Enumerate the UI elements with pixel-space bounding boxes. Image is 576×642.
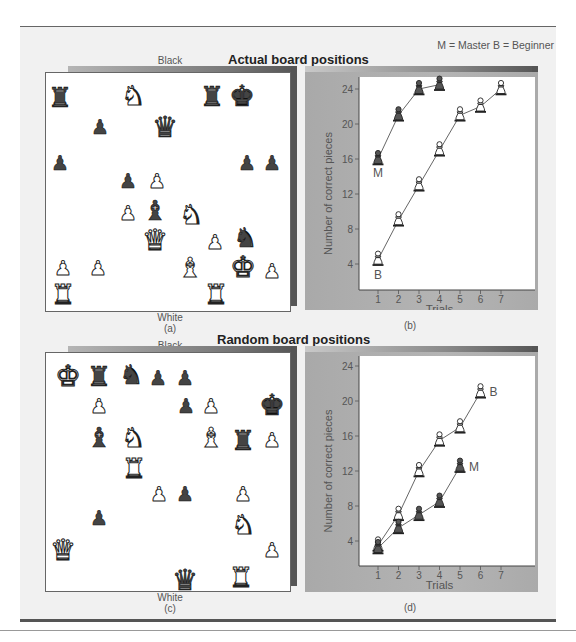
- board-c-shadow-right: [291, 346, 297, 586]
- board-a-shadow-right: [291, 66, 297, 306]
- white-rook-icon: ♜: [204, 281, 228, 308]
- white-pawn-icon: ♟: [206, 232, 224, 252]
- x-tick-label: 3: [416, 294, 422, 305]
- white-pawn-icon: ♟: [234, 484, 252, 504]
- black-king-icon: ♚: [259, 391, 285, 420]
- chart-b-panel: 48121620241234567TrialsNumber of correct…: [305, 72, 538, 310]
- black-pawn-icon: ♟: [90, 508, 108, 528]
- plot-area: [359, 77, 535, 290]
- bottom-rule: [0, 630, 576, 631]
- line-chart-random: 48121620241234567TrialsNumber of correct…: [305, 352, 538, 592]
- y-tick-label: 8: [347, 501, 353, 512]
- y-tick-label: 4: [347, 259, 353, 270]
- series-label-beginner: B: [374, 268, 382, 282]
- x-tick-label: 1: [375, 570, 381, 581]
- white-queen-icon: ♛: [50, 536, 76, 565]
- y-tick-label: 12: [342, 189, 354, 200]
- black-rook-icon: ♜: [87, 363, 111, 390]
- series-label-master: M: [373, 166, 383, 180]
- y-tick-label: 16: [342, 431, 354, 442]
- black-bishop-icon: ♝: [143, 197, 167, 224]
- y-axis-label: Number of correct pieces: [322, 132, 334, 255]
- y-tick-label: 12: [342, 466, 354, 477]
- white-pawn-icon: ♟: [89, 258, 107, 278]
- white-king-icon: ♚: [55, 362, 81, 391]
- x-tick-label: 5: [457, 294, 463, 305]
- y-tick-label: 20: [342, 396, 354, 407]
- board-a-bottom-label: White: [148, 312, 192, 323]
- caption-d: (d): [390, 602, 430, 613]
- black-queen-icon: ♛: [172, 566, 198, 595]
- white-bishop-icon: ♝: [199, 424, 223, 451]
- black-rook-icon: ♜: [48, 84, 72, 111]
- chessboard-actual: ♜♞♜♚♟♛♟♟♟♟♟♟♝♞♛♟♞♟♟♝♚♟♜♜: [45, 72, 291, 312]
- y-tick-label: 24: [342, 84, 354, 95]
- black-pawn-icon: ♟: [91, 117, 109, 137]
- x-tick-label: 7: [498, 294, 504, 305]
- x-tick-label: 2: [396, 570, 402, 581]
- black-pawn-icon: ♟: [263, 153, 281, 173]
- white-pawn-icon: ♟: [90, 396, 108, 416]
- chart-d-panel: 48121620241234567TrialsNumber of correct…: [305, 352, 538, 592]
- white-knight-icon: ♞: [121, 424, 145, 451]
- white-knight-icon: ♞: [121, 82, 145, 109]
- black-rook-icon: ♜: [231, 427, 255, 454]
- board-a-top-label: Black: [150, 55, 190, 66]
- x-tick-label: 3: [416, 570, 422, 581]
- x-axis-label: Trials: [426, 579, 454, 591]
- white-bishop-icon: ♝: [178, 254, 202, 281]
- white-rook-icon: ♜: [122, 455, 146, 482]
- white-pawn-icon: ♟: [202, 396, 220, 416]
- white-pawn-icon: ♟: [263, 430, 281, 450]
- white-pawn-icon: ♟: [119, 203, 137, 223]
- white-rook-icon: ♜: [229, 564, 253, 591]
- white-pawn-icon: ♟: [150, 484, 168, 504]
- caption-b: (b): [390, 320, 430, 331]
- y-tick-label: 24: [342, 361, 354, 372]
- y-axis-label: Number of correct pieces: [322, 409, 334, 532]
- black-pawn-icon: ♟: [149, 368, 167, 388]
- black-knight-icon: ♞: [119, 361, 143, 388]
- x-tick-label: 6: [478, 570, 484, 581]
- series-label-master: M: [469, 460, 479, 474]
- black-bishop-icon: ♝: [87, 424, 111, 451]
- line-chart-actual: 48121620241234567TrialsNumber of correct…: [305, 72, 538, 310]
- black-pawn-icon: ♟: [177, 396, 195, 416]
- caption-a: (a): [150, 323, 190, 334]
- white-rook-icon: ♜: [51, 281, 75, 308]
- x-tick-label: 6: [478, 294, 484, 305]
- x-tick-label: 2: [396, 294, 402, 305]
- white-pawn-icon: ♟: [263, 261, 281, 281]
- section-title-random: Random board positions: [217, 332, 370, 347]
- x-axis-label: Trials: [426, 303, 454, 310]
- black-queen-icon: ♛: [152, 113, 178, 142]
- board-c-bottom-label: White: [148, 592, 192, 603]
- black-knight-icon: ♞: [233, 224, 257, 251]
- y-tick-label: 16: [342, 154, 354, 165]
- y-tick-label: 20: [342, 119, 354, 130]
- x-tick-label: 5: [457, 570, 463, 581]
- white-pawn-icon: ♟: [263, 540, 281, 560]
- legend: M = Master B = Beginner: [437, 39, 554, 51]
- chessboard-random: ♚♜♞♟♟♟♟♟♚♝♞♝♜♟♜♟♟♟♟♞♛♟♛♜: [45, 352, 291, 592]
- black-pawn-icon: ♟: [176, 484, 194, 504]
- black-king-icon: ♚: [229, 82, 255, 111]
- white-knight-icon: ♞: [179, 201, 203, 228]
- black-pawn-icon: ♟: [51, 153, 69, 173]
- series-label-beginner: B: [490, 385, 498, 399]
- x-tick-label: 1: [375, 294, 381, 305]
- x-tick-label: 7: [498, 570, 504, 581]
- black-pawn-icon: ♟: [176, 368, 194, 388]
- white-queen-icon: ♛: [142, 226, 168, 255]
- white-pawn-icon: ♟: [54, 258, 72, 278]
- white-pawn-icon: ♟: [148, 171, 166, 191]
- y-tick-label: 8: [347, 224, 353, 235]
- white-knight-icon: ♞: [231, 511, 255, 538]
- caption-c: (c): [150, 603, 190, 614]
- black-rook-icon: ♜: [200, 83, 224, 110]
- black-pawn-icon: ♟: [238, 153, 256, 173]
- black-pawn-icon: ♟: [119, 171, 137, 191]
- section-title-actual: Actual board positions: [228, 52, 369, 67]
- white-king-icon: ♚: [230, 253, 256, 282]
- y-tick-label: 4: [347, 536, 353, 547]
